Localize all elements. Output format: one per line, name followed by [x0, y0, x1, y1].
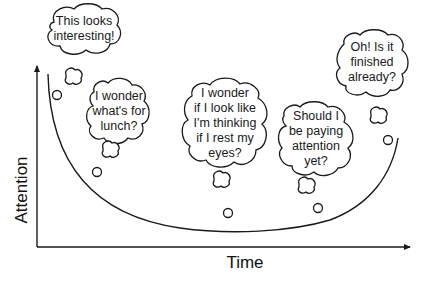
thought-text-eyes: I wonder if I look like I'm thinking if … [194, 86, 257, 161]
thought-puff-start-2 [53, 91, 62, 100]
thought-text-start: This looks interesting! [53, 14, 114, 44]
thought-puff-paying-1 [298, 177, 315, 193]
thought-text-lunch: I wonder what's for lunch? [92, 89, 145, 134]
thought-puff-eyes-1 [213, 171, 230, 187]
thought-text-paying: Should I be paying attention yet? [289, 109, 343, 169]
thought-puff-finished-1 [370, 107, 387, 123]
thought-puff-start-1 [65, 68, 82, 84]
attention-diagram: This looks interesting! I wonder what's … [0, 0, 428, 281]
thought-puff-lunch-1 [102, 141, 119, 157]
thought-puff-paying-2 [314, 204, 323, 213]
thought-puff-eyes-2 [224, 209, 233, 218]
y-axis-label: Attention [12, 156, 32, 223]
thought-text-finished: Oh! Is it finished already? [348, 40, 396, 85]
thought-puff-finished-2 [384, 136, 393, 145]
x-axis-label: Time [226, 253, 263, 273]
thought-puff-lunch-2 [93, 168, 102, 177]
